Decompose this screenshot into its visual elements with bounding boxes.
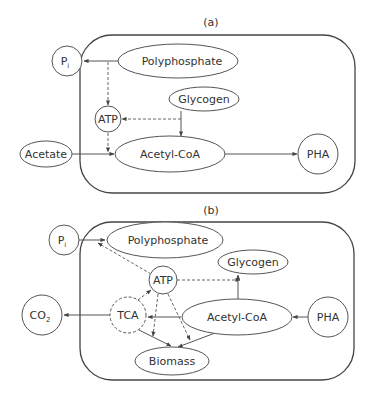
node-pi-b: Pi <box>49 225 79 255</box>
node-biomass-b: Biomass <box>135 347 209 375</box>
svg-text:Acetyl-CoA: Acetyl-CoA <box>140 148 200 161</box>
svg-text:Polyphosphate: Polyphosphate <box>142 55 223 68</box>
svg-text:TCA: TCA <box>116 309 139 322</box>
svg-text:ATP: ATP <box>98 113 118 126</box>
svg-text:Acetate: Acetate <box>25 148 68 161</box>
edge-tca-to-biomass <box>139 330 171 346</box>
node-pi-a: Pi <box>52 46 82 76</box>
node-acetylcoa-a: Acetyl-CoA <box>115 136 225 172</box>
edge-tca-to-atp <box>138 290 151 300</box>
panel-b: (b) Pi Polyphosphate Glycogen ATP <box>22 204 354 380</box>
svg-text:Acetyl-CoA: Acetyl-CoA <box>207 311 267 324</box>
svg-text:Glycogen: Glycogen <box>227 256 279 269</box>
node-acetate-a: Acetate <box>20 141 72 167</box>
node-polyphosphate-a: Polyphosphate <box>118 44 238 78</box>
svg-text:Polyphosphate: Polyphosphate <box>128 234 209 247</box>
node-glycogen-b: Glycogen <box>218 250 288 274</box>
node-co2-b: CO2 <box>22 295 62 335</box>
panel-a: (a) Pi Polyphosphate Glycogen ATP Acet <box>20 16 355 193</box>
edge-acetylcoa-to-biomass <box>178 333 215 347</box>
svg-text:Biomass: Biomass <box>149 355 196 368</box>
svg-text:PHA: PHA <box>317 311 340 324</box>
svg-text:Glycogen: Glycogen <box>178 93 230 106</box>
node-glycogen-a: Glycogen <box>169 87 239 111</box>
svg-text:PHA: PHA <box>307 148 330 161</box>
panel-a-label: (a) <box>203 16 218 29</box>
node-pha-b: PHA <box>308 297 348 337</box>
panel-b-label: (b) <box>203 204 219 217</box>
node-tca-b: TCA <box>110 297 146 333</box>
edge-atp-to-biomass-1 <box>153 294 158 336</box>
metabolic-diagram: (a) Pi Polyphosphate Glycogen ATP Acet <box>0 0 376 401</box>
node-polyphosphate-b: Polyphosphate <box>107 222 223 258</box>
svg-text:ATP: ATP <box>153 274 173 287</box>
node-acetylcoa-b: Acetyl-CoA <box>182 299 292 335</box>
node-atp-a: ATP <box>95 106 121 132</box>
node-pha-a: PHA <box>298 134 338 174</box>
node-atp-b: ATP <box>149 266 177 294</box>
